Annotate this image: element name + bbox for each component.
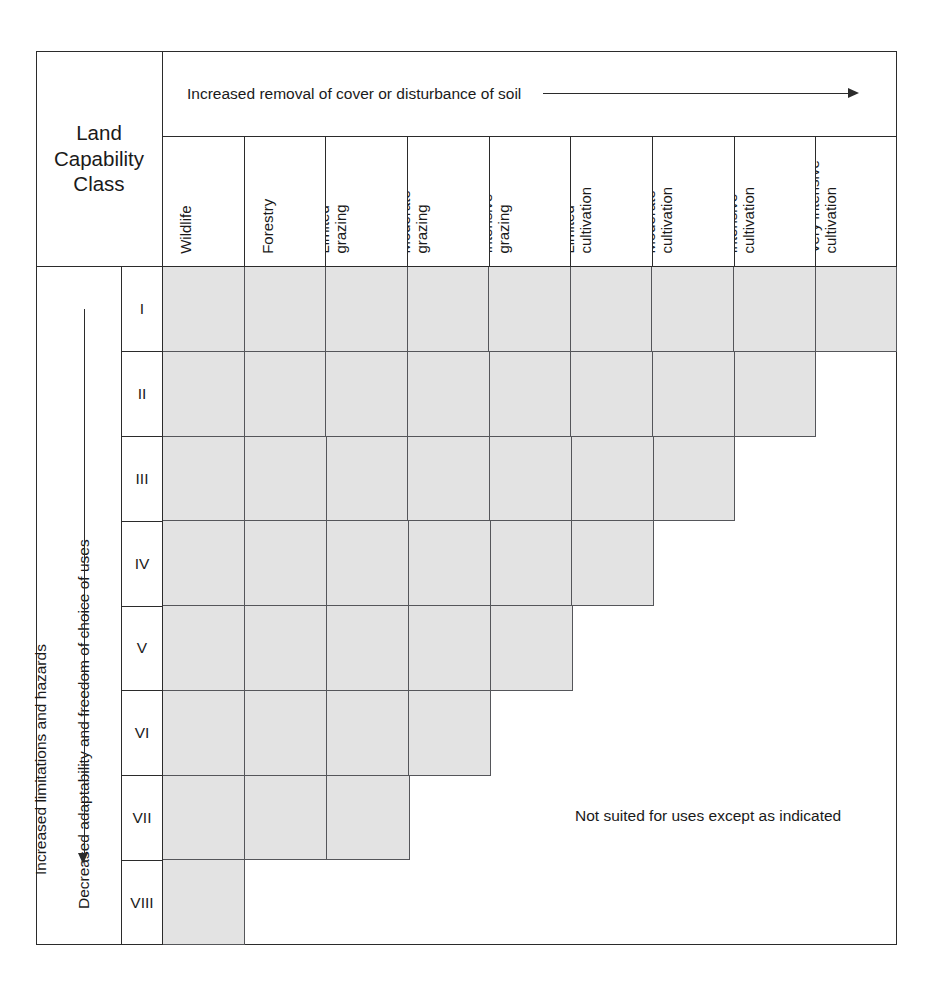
matrix-cell-ii-moderate-cultivation[interactable] <box>653 352 735 437</box>
matrix-cell-viii-very-intensive-cultivation[interactable] <box>816 860 897 945</box>
matrix-cell-iii-intensive-cultivation[interactable] <box>735 437 816 522</box>
matrix-cell-ii-wildlife[interactable] <box>163 352 245 437</box>
column-header-label: Moderate grazing <box>408 191 431 254</box>
matrix-cell-vii-intensive-grazing[interactable] <box>491 776 572 861</box>
row-label-v: V <box>122 607 162 692</box>
matrix-cell-iv-intensive-cultivation[interactable] <box>735 521 816 606</box>
matrix-cell-iv-wildlife[interactable] <box>163 521 245 606</box>
arrow-shaft <box>84 309 85 854</box>
left-axis-panel: Increased limitations and hazards Decrea… <box>36 267 122 945</box>
matrix-cell-iv-limited-grazing[interactable] <box>327 521 409 606</box>
matrix-cell-vi-intensive-grazing[interactable] <box>491 691 572 776</box>
matrix-cell-iii-intensive-grazing[interactable] <box>490 437 572 522</box>
matrix-cell-i-intensive-grazing[interactable] <box>489 267 571 352</box>
matrix-cell-iii-moderate-grazing[interactable] <box>408 437 490 522</box>
matrix-cell-vi-limited-cultivation[interactable] <box>573 691 654 776</box>
matrix-cell-i-limited-grazing[interactable] <box>326 267 408 352</box>
matrix-cell-i-limited-cultivation[interactable] <box>571 267 653 352</box>
row-label-iv: IV <box>122 522 162 607</box>
matrix-cell-v-forestry[interactable] <box>245 606 327 691</box>
column-header-row: Wildlife Forestry Limited grazing Modera… <box>163 137 897 267</box>
column-header-label: Limited cultivation <box>571 187 594 254</box>
matrix-cell-v-intensive-cultivation[interactable] <box>735 606 816 691</box>
title-line-1: Land <box>54 120 144 146</box>
matrix-cell-viii-moderate-grazing[interactable] <box>408 860 489 945</box>
matrix-cell-i-intensive-cultivation[interactable] <box>734 267 816 352</box>
matrix-cell-v-limited-cultivation[interactable] <box>573 606 654 691</box>
matrix-cell-viii-limited-grazing[interactable] <box>327 860 408 945</box>
matrix-cell-vi-very-intensive-cultivation[interactable] <box>816 691 897 776</box>
matrix-cell-vii-wildlife[interactable] <box>163 776 245 861</box>
matrix-cell-viii-moderate-cultivation[interactable] <box>653 860 734 945</box>
matrix-cell-iii-wildlife[interactable] <box>163 437 245 522</box>
matrix-cell-vi-wildlife[interactable] <box>163 691 245 776</box>
title-line-3: Class <box>54 171 144 197</box>
left-axis-outer-label: Increased limitations and hazards <box>32 644 50 875</box>
column-header-limited-grazing: Limited grazing <box>326 137 408 267</box>
matrix-cell-v-very-intensive-cultivation[interactable] <box>816 606 897 691</box>
column-header-intensive-cultivation: Intensive cultivation <box>735 137 817 267</box>
matrix-cell-i-moderate-grazing[interactable] <box>408 267 490 352</box>
title-line-2: Capability <box>54 146 144 172</box>
column-header-label: Intensive cultivation <box>735 187 758 254</box>
top-axis-banner: Increased removal of cover or disturbanc… <box>163 51 897 137</box>
matrix-cell-v-limited-grazing[interactable] <box>327 606 409 691</box>
matrix-cell-iv-intensive-grazing[interactable] <box>491 521 573 606</box>
arrow-head <box>78 853 88 864</box>
matrix-cell-ii-intensive-cultivation[interactable] <box>735 352 817 437</box>
matrix-cell-v-moderate-cultivation[interactable] <box>654 606 735 691</box>
column-header-intensive-grazing: Intensive grazing <box>490 137 572 267</box>
matrix-cell-ii-limited-cultivation[interactable] <box>571 352 653 437</box>
matrix-cell-vi-forestry[interactable] <box>245 691 327 776</box>
matrix-cell-viii-limited-cultivation[interactable] <box>571 860 652 945</box>
matrix-cell-iii-forestry[interactable] <box>245 437 327 522</box>
matrix-cell-viii-intensive-cultivation[interactable] <box>734 860 815 945</box>
row-label-iii: III <box>122 437 162 522</box>
matrix-cell-v-intensive-grazing[interactable] <box>491 606 573 691</box>
matrix-cell-vi-intensive-cultivation[interactable] <box>735 691 816 776</box>
row-label-column: I II III IV V VI VII VIII <box>122 267 163 945</box>
right-arrow-icon <box>543 88 859 100</box>
column-header-label: Forestry <box>260 199 277 254</box>
matrix-cell-iii-very-intensive-cultivation[interactable] <box>816 437 897 522</box>
matrix-cell-iii-moderate-cultivation[interactable] <box>654 437 736 522</box>
matrix-cell-vii-moderate-grazing[interactable] <box>410 776 491 861</box>
matrix-cell-ii-forestry[interactable] <box>245 352 327 437</box>
column-header-wildlife: Wildlife <box>163 137 245 267</box>
matrix-cell-i-moderate-cultivation[interactable] <box>652 267 734 352</box>
matrix-cell-iv-moderate-grazing[interactable] <box>409 521 491 606</box>
matrix-cell-viii-wildlife[interactable] <box>163 860 245 945</box>
matrix-cell-vi-moderate-grazing[interactable] <box>409 691 491 776</box>
matrix-cell-vii-forestry[interactable] <box>245 776 327 861</box>
matrix-cell-iv-very-intensive-cultivation[interactable] <box>816 521 897 606</box>
table-row <box>163 437 897 522</box>
matrix-cell-i-wildlife[interactable] <box>163 267 245 352</box>
matrix-cell-iv-moderate-cultivation[interactable] <box>654 521 735 606</box>
matrix-cell-viii-intensive-grazing[interactable] <box>490 860 571 945</box>
matrix-cell-ii-intensive-grazing[interactable] <box>490 352 572 437</box>
matrix-cell-viii-forestry[interactable] <box>245 860 326 945</box>
not-suited-note: Not suited for uses except as indicated <box>575 807 841 825</box>
matrix-cell-iii-limited-cultivation[interactable] <box>572 437 654 522</box>
matrix-cell-vi-limited-grazing[interactable] <box>327 691 409 776</box>
matrix-cell-ii-very-intensive-cultivation[interactable] <box>816 352 897 437</box>
row-label-viii: VIII <box>122 861 162 945</box>
column-header-label: Very intensive cultivation <box>816 161 839 254</box>
matrix-cell-iii-limited-grazing[interactable] <box>327 437 409 522</box>
row-label-ii: II <box>122 352 162 437</box>
matrix-cell-i-very-intensive-cultivation[interactable] <box>816 267 898 352</box>
column-header-label: Intensive grazing <box>490 194 513 254</box>
matrix-cell-i-forestry[interactable] <box>245 267 327 352</box>
matrix-cell-vi-moderate-cultivation[interactable] <box>654 691 735 776</box>
matrix-cell-v-moderate-grazing[interactable] <box>409 606 491 691</box>
matrix-cell-iv-limited-cultivation[interactable] <box>572 521 654 606</box>
table-row <box>163 267 897 352</box>
row-label-vii: VII <box>122 776 162 861</box>
page-title: Land Capability Class <box>54 120 144 197</box>
matrix-cell-iv-forestry[interactable] <box>245 521 327 606</box>
table-row <box>163 691 897 776</box>
matrix-cell-ii-moderate-grazing[interactable] <box>408 352 490 437</box>
matrix-cell-ii-limited-grazing[interactable] <box>326 352 408 437</box>
matrix-cell-vii-limited-grazing[interactable] <box>327 776 409 861</box>
matrix-cell-v-wildlife[interactable] <box>163 606 245 691</box>
